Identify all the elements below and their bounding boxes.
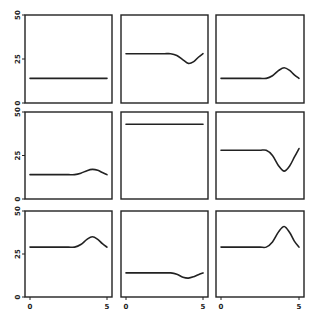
- series-line: [30, 237, 107, 248]
- panel-5: [121, 112, 208, 199]
- panel-7: 0255005: [14, 206, 112, 311]
- series-line: [30, 169, 107, 174]
- panel-4: 02550: [14, 107, 112, 201]
- panel-frame: [25, 112, 112, 199]
- x-tick-label: 5: [201, 303, 206, 311]
- panel-frame: [216, 211, 304, 297]
- panel-frame: [25, 211, 112, 297]
- series-line: [126, 54, 203, 64]
- y-tick-label: 25: [14, 54, 22, 64]
- small-multiples-chart: 025500255002550050505: [0, 0, 315, 322]
- series-line: [221, 149, 299, 172]
- panel-frame: [121, 15, 208, 103]
- y-tick-label: 0: [14, 100, 22, 105]
- panel-9: 05: [216, 211, 304, 311]
- panel-frame: [25, 15, 112, 103]
- x-tick-label: 0: [124, 303, 129, 311]
- panel-1: 02550: [14, 10, 112, 105]
- y-tick-label: 50: [14, 107, 22, 117]
- panel-6: [216, 112, 304, 199]
- panel-frame: [216, 15, 304, 103]
- x-tick-label: 5: [105, 303, 110, 311]
- panel-frame: [216, 112, 304, 199]
- y-tick-label: 50: [14, 10, 22, 20]
- panel-3: [216, 15, 304, 103]
- series-line: [221, 226, 299, 247]
- panel-8: 05: [121, 211, 208, 311]
- y-tick-label: 0: [14, 294, 22, 299]
- panel-2: [121, 15, 208, 103]
- y-tick-label: 25: [14, 249, 22, 259]
- y-tick-label: 0: [14, 196, 22, 201]
- y-tick-label: 50: [14, 206, 22, 216]
- x-tick-label: 5: [297, 303, 302, 311]
- x-tick-label: 0: [219, 303, 224, 311]
- panel-frame: [121, 211, 208, 297]
- y-tick-label: 25: [14, 151, 22, 161]
- series-line: [221, 68, 299, 79]
- x-tick-label: 0: [28, 303, 33, 311]
- series-line: [126, 273, 203, 278]
- panel-frame: [121, 112, 208, 199]
